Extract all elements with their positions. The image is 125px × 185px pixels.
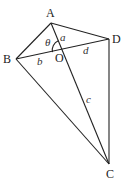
diagonal-ac (51, 23, 109, 164)
point-label-a: A (46, 6, 55, 20)
segment-label-a: a (60, 31, 66, 43)
segment-label-c: c (86, 93, 91, 105)
point-label-c: C (106, 167, 114, 181)
segment-label-b: b (37, 55, 43, 67)
segment-label-d: d (83, 44, 89, 56)
point-label-d: D (112, 32, 121, 46)
edge-bc (16, 59, 109, 164)
point-label-o: O (55, 51, 64, 65)
quadrilateral-diagram: A D B O C θ a b d c (0, 0, 125, 185)
point-label-b: B (3, 52, 11, 66)
angle-label-theta: θ (45, 36, 51, 48)
